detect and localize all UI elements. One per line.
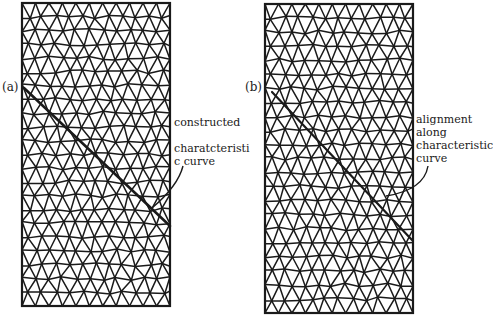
annotation-b: alignment along characteristic curve bbox=[416, 113, 493, 165]
panel-a-label: (a) bbox=[2, 80, 19, 94]
annotation-a: constructed charatcteristi c curve bbox=[174, 116, 250, 168]
panel-b-label: (b) bbox=[245, 80, 262, 94]
